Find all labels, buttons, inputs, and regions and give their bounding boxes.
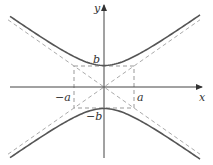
b-label: b	[93, 53, 100, 66]
x-axis-label: x	[199, 91, 206, 104]
neg-b-label: −b	[86, 110, 102, 123]
hyperbola-diagram: y x b −b a −a	[0, 0, 213, 165]
a-label: a	[137, 91, 144, 104]
neg-a-label: −a	[55, 91, 71, 104]
y-axis-label: y	[93, 2, 101, 15]
